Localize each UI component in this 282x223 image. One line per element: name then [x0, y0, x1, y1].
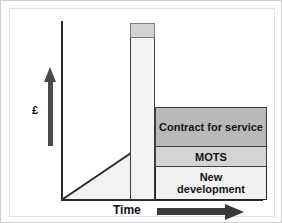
up-arrow-icon: [44, 67, 56, 82]
peak-cost-bar-cap: [130, 23, 155, 38]
cost-breakdown-stack: New development MOTS Contract for servic…: [155, 107, 267, 200]
cost-growth-hypotenuse: [62, 152, 132, 200]
stack-segment-contract-for-service: Contract for service: [155, 107, 267, 147]
peak-cost-bar: [130, 37, 155, 200]
new-development-line1: New: [200, 171, 223, 183]
stack-segment-mots: MOTS: [155, 146, 267, 167]
y-arrow-shaft: [48, 81, 53, 146]
stack-segment-new-development-label: New development: [177, 171, 245, 196]
x-axis-label: Time: [113, 203, 141, 217]
y-axis-label: £: [27, 104, 43, 116]
stack-segment-new-development: New development: [155, 166, 267, 200]
new-development-line2: development: [177, 183, 245, 195]
time-arrow-shaft: [157, 208, 227, 215]
diagram-canvas: £ New development MOTS Contract for serv…: [9, 8, 275, 217]
diagram-frame: £ New development MOTS Contract for serv…: [0, 0, 282, 223]
right-arrow-icon: [225, 204, 244, 220]
